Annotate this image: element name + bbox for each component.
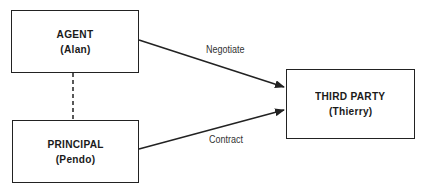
principal-title: PRINCIPAL <box>47 137 103 152</box>
third-party-title: THIRD PARTY <box>315 89 385 104</box>
negotiate-label: Negotiate <box>206 44 245 55</box>
agent-subtitle: (Alan) <box>60 42 90 57</box>
principal-subtitle: (Pendo) <box>56 152 96 167</box>
agent-title: AGENT <box>57 27 94 42</box>
principal-node: PRINCIPAL (Pendo) <box>12 120 139 183</box>
agent-node: AGENT (Alan) <box>11 10 139 73</box>
contract-label: Contract <box>209 134 243 145</box>
third-party-subtitle: (Thierry) <box>329 104 373 119</box>
third-party-node: THIRD PARTY (Thierry) <box>286 69 415 139</box>
